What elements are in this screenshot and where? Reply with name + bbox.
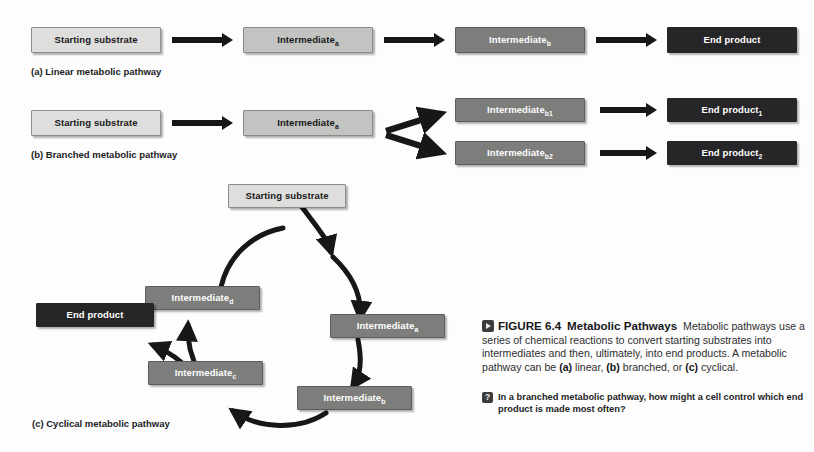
box-label: End product bbox=[702, 104, 759, 115]
box-label: End product bbox=[66, 310, 123, 320]
box-intermediate-a-linear[interactable]: Intermediatea bbox=[243, 27, 373, 53]
box-subscript: b1 bbox=[545, 110, 553, 117]
box-subscript: a bbox=[414, 326, 418, 333]
branch-arrow-lower bbox=[386, 135, 440, 152]
play-video-icon[interactable] bbox=[482, 320, 494, 332]
box-label: Starting substrate bbox=[245, 191, 328, 201]
box-subscript: c bbox=[232, 373, 236, 380]
box-subscript: b bbox=[547, 40, 551, 47]
cycle-arc-intermediate-d-to-substrate bbox=[221, 228, 283, 287]
box-label: Intermediate bbox=[175, 367, 233, 378]
box-intermediate-a-cyclical[interactable]: Intermediatea bbox=[330, 314, 445, 338]
box-label: Starting substrate bbox=[54, 35, 137, 45]
box-intermediate-c-cyclical[interactable]: Intermediatec bbox=[148, 361, 263, 385]
box-subscript: 1 bbox=[759, 110, 763, 117]
figure-number: FIGURE 6.4 bbox=[498, 319, 561, 332]
figure-question-row: ? In a branched metabolic pathway, how m… bbox=[482, 391, 808, 416]
box-label: Intermediate bbox=[277, 34, 335, 45]
box-label: Intermediate bbox=[487, 147, 545, 158]
box-intermediate-a-branched[interactable]: Intermediatea bbox=[243, 110, 373, 136]
box-label: Intermediate bbox=[489, 34, 547, 45]
box-starting-substrate-branched[interactable]: Starting substrate bbox=[31, 110, 161, 136]
cycle-arrow-intermediate-b-to-c bbox=[233, 411, 326, 426]
box-subscript: a bbox=[335, 123, 339, 130]
box-label: Intermediate bbox=[487, 104, 545, 115]
box-label: Intermediate bbox=[172, 292, 230, 303]
figure-title: Metabolic Pathways bbox=[567, 319, 677, 332]
cycle-arrow-intermediate-a-to-b bbox=[353, 340, 360, 386]
metabolic-pathways-figure: Starting substrate Intermediatea Interme… bbox=[0, 0, 814, 452]
box-end-product-1[interactable]: End product1 bbox=[667, 98, 797, 122]
box-subscript: d bbox=[229, 298, 233, 305]
box-label: Intermediate bbox=[357, 320, 415, 331]
box-label: Intermediate bbox=[324, 392, 382, 403]
branch-arrow-upper bbox=[386, 114, 440, 131]
box-label: End product bbox=[702, 147, 759, 158]
box-intermediate-d-cyclical[interactable]: Intermediated bbox=[145, 286, 260, 310]
box-end-product-linear[interactable]: End product bbox=[667, 27, 797, 53]
box-starting-substrate-cyclical[interactable]: Starting substrate bbox=[228, 184, 346, 208]
cycle-arrow-substrate-to-intermediate-a bbox=[302, 207, 331, 252]
box-subscript: b2 bbox=[545, 153, 553, 160]
figure-question-text: In a branched metabolic pathway, how mig… bbox=[498, 391, 808, 416]
box-intermediate-b-cyclical[interactable]: Intermediateb bbox=[297, 386, 412, 410]
panel-label-b: (b) Branched metabolic pathway bbox=[31, 149, 177, 160]
box-intermediate-b2[interactable]: Intermediateb2 bbox=[455, 141, 585, 165]
panel-label-c: (c) Cyclical metabolic pathway bbox=[32, 418, 170, 429]
cycle-arc-upper-right bbox=[333, 257, 360, 317]
figure-caption-block: FIGURE 6.4 Metabolic Pathways Metabolic … bbox=[482, 308, 808, 386]
box-subscript: b bbox=[381, 398, 385, 405]
box-starting-substrate-linear[interactable]: Starting substrate bbox=[31, 27, 161, 53]
box-end-product-2[interactable]: End product2 bbox=[667, 141, 797, 165]
box-end-product-cyclical[interactable]: End product bbox=[36, 303, 154, 327]
panel-label-a: (a) Linear metabolic pathway bbox=[31, 66, 161, 77]
box-intermediate-b1[interactable]: Intermediateb1 bbox=[455, 98, 585, 122]
question-mark-icon[interactable]: ? bbox=[482, 392, 493, 403]
figure-caption-text: FIGURE 6.4 Metabolic Pathways Metabolic … bbox=[482, 319, 808, 376]
box-label: End product bbox=[703, 35, 760, 45]
box-subscript: a bbox=[335, 40, 339, 47]
box-subscript: 2 bbox=[759, 153, 763, 160]
box-label: Intermediate bbox=[277, 117, 335, 128]
box-label: Starting substrate bbox=[54, 118, 137, 128]
box-intermediate-b-linear[interactable]: Intermediateb bbox=[455, 27, 585, 53]
